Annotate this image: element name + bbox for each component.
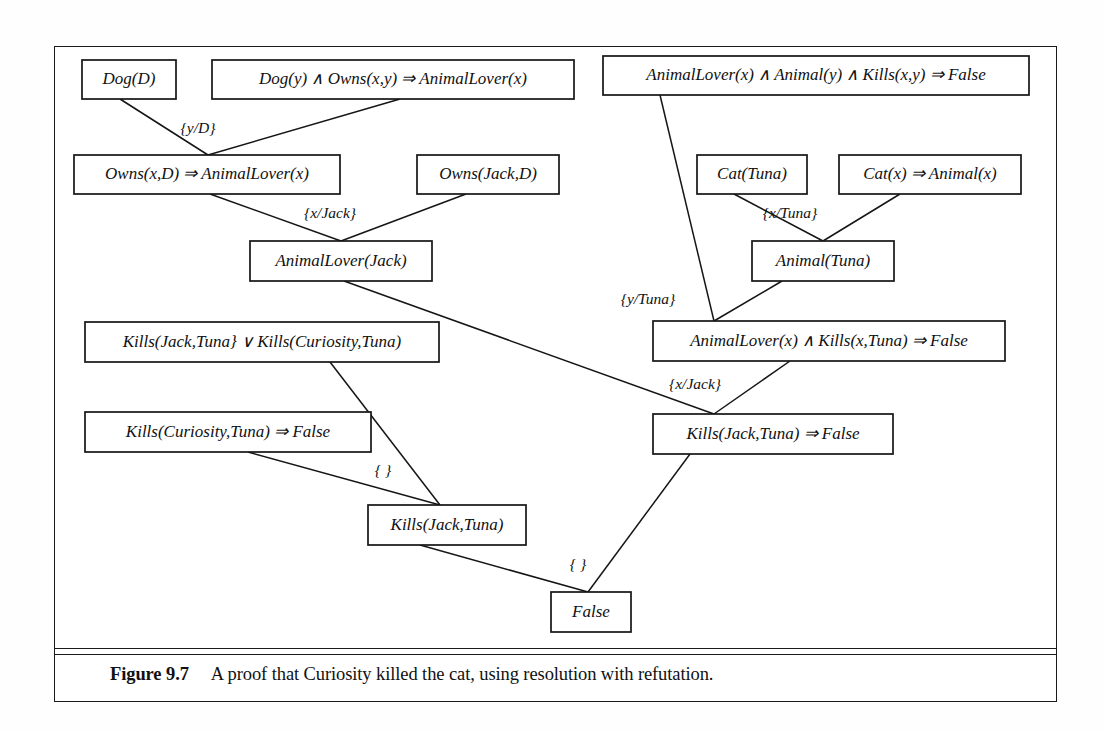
- clause-label-kills_cur_false: Kills(Curiosity,Tuna) ⇒ False: [125, 422, 331, 441]
- figure-number-label: Figure 9.7: [110, 664, 189, 684]
- clause-node-cat_tuna[interactable]: Cat(Tuna): [697, 155, 807, 194]
- clause-node-dog_owns_rule[interactable]: Dog(y) ∧ Owns(x,y) ⇒ AnimalLover(x): [212, 60, 574, 99]
- clause-node-false_node[interactable]: False: [551, 592, 631, 632]
- substitution-label-subst_empty_2: { }: [570, 555, 587, 572]
- substitution-label-subst_x_jack: {x/Jack}: [304, 204, 357, 221]
- clause-label-cat_animal_rule: Cat(x) ⇒ Animal(x): [863, 164, 997, 183]
- clause-node-dog_d[interactable]: Dog(D): [82, 60, 176, 99]
- clause-node-owns_x_d[interactable]: Owns(x,D) ⇒ AnimalLover(x): [74, 155, 340, 194]
- clause-label-cat_tuna: Cat(Tuna): [717, 164, 787, 183]
- clause-label-al_kills_tuna: AnimalLover(x) ∧ Kills(x,Tuna) ⇒ False: [689, 331, 968, 350]
- substitution-label-subst_x_jack2: {x/Jack}: [669, 375, 722, 392]
- clause-label-dog_d: Dog(D): [102, 69, 156, 88]
- clause-label-owns_jack_d: Owns(Jack,D): [439, 164, 537, 183]
- proof-edge-al_animal_kills-to-al_kills_tuna: [660, 95, 714, 321]
- clause-node-al_jack[interactable]: AnimalLover(Jack): [250, 241, 432, 281]
- clause-node-kills_jack_false[interactable]: Kills(Jack,Tuna) ⇒ False: [653, 414, 893, 454]
- clause-node-kills_cur_false[interactable]: Kills(Curiosity,Tuna) ⇒ False: [85, 412, 371, 452]
- figure-caption: Figure 9.7A proof that Curiosity killed …: [110, 664, 1010, 694]
- substitution-label-subst_x_tuna: {x/Tuna}: [763, 204, 818, 221]
- proof-edge-kills_cur_false-to-kills_jack: [248, 452, 440, 505]
- substitution-label-subst_empty_1: { }: [375, 461, 392, 478]
- clause-node-al_animal_kills[interactable]: AnimalLover(x) ∧ Animal(y) ∧ Kills(x,y) …: [603, 56, 1029, 95]
- proof-edge-animal_tuna-to-al_kills_tuna: [714, 281, 782, 321]
- clause-node-cat_animal_rule[interactable]: Cat(x) ⇒ Animal(x): [839, 155, 1021, 194]
- clause-label-kills_or: Kills(Jack,Tuna} ∨ Kills(Curiosity,Tuna): [122, 332, 402, 351]
- proof-clause-nodes: Dog(D)Dog(y) ∧ Owns(x,y) ⇒ AnimalLover(x…: [74, 56, 1029, 632]
- resolution-proof-diagram: Dog(D)Dog(y) ∧ Owns(x,y) ⇒ AnimalLover(x…: [0, 0, 1103, 733]
- clause-label-kills_jack: Kills(Jack,Tuna): [390, 515, 504, 534]
- proof-edge-al_kills_tuna-to-kills_jack_false: [714, 361, 790, 414]
- clause-label-dog_owns_rule: Dog(y) ∧ Owns(x,y) ⇒ AnimalLover(x): [258, 69, 527, 88]
- substitution-label-subst_y_d: {y/D}: [181, 119, 217, 136]
- figure-caption-text: A proof that Curiosity killed the cat, u…: [211, 664, 714, 684]
- proof-edge-cat_animal_rule-to-animal_tuna: [823, 194, 900, 241]
- proof-edge-owns_jack_d-to-al_jack: [341, 194, 466, 241]
- clause-node-al_kills_tuna[interactable]: AnimalLover(x) ∧ Kills(x,Tuna) ⇒ False: [653, 321, 1005, 361]
- proof-edge-dog_owns_rule-to-owns_x_d: [208, 99, 400, 155]
- clause-label-kills_jack_false: Kills(Jack,Tuna) ⇒ False: [685, 424, 860, 443]
- substitution-label-subst_y_tuna: {y/Tuna}: [621, 290, 676, 307]
- clause-label-al_animal_kills: AnimalLover(x) ∧ Animal(y) ∧ Kills(x,y) …: [645, 65, 986, 84]
- clause-node-kills_or[interactable]: Kills(Jack,Tuna} ∨ Kills(Curiosity,Tuna): [85, 322, 439, 362]
- clause-node-animal_tuna[interactable]: Animal(Tuna): [752, 241, 894, 281]
- clause-label-animal_tuna: Animal(Tuna): [775, 251, 871, 270]
- caption-divider-rule: [54, 648, 1057, 655]
- proof-edge-kills_jack-to-false_node: [420, 545, 588, 592]
- clause-label-false_node: False: [571, 602, 610, 621]
- proof-edge-kills_jack_false-to-false_node: [588, 454, 690, 592]
- clause-node-kills_jack[interactable]: Kills(Jack,Tuna): [368, 505, 526, 545]
- clause-label-owns_x_d: Owns(x,D) ⇒ AnimalLover(x): [105, 164, 309, 183]
- clause-label-al_jack: AnimalLover(Jack): [274, 251, 407, 270]
- figure-page: Dog(D)Dog(y) ∧ Owns(x,y) ⇒ AnimalLover(x…: [0, 0, 1103, 733]
- clause-node-owns_jack_d[interactable]: Owns(Jack,D): [417, 155, 559, 194]
